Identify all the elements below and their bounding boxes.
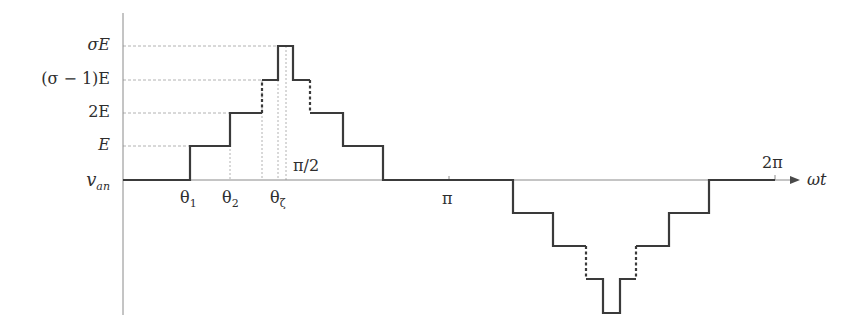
- y-label-sigma-e: σE: [0, 37, 110, 53]
- x-label-2pi: 2π: [762, 155, 783, 171]
- y-label-e: E: [0, 137, 110, 153]
- x-label-theta-zeta: θζ: [270, 190, 286, 209]
- y-label-sigma-minus-one-e: (σ − 1)E: [0, 71, 110, 87]
- level-guides: [123, 46, 278, 146]
- x-axis-arrow-icon: [790, 176, 800, 184]
- x-label-theta2: θ2: [222, 190, 239, 209]
- x-label-pi: π: [442, 191, 453, 207]
- x-label-pi-over-2: π/2: [293, 158, 319, 174]
- x-axis-label-omega-t: ωt: [807, 172, 826, 188]
- y-label-van: van: [0, 171, 110, 192]
- x-label-theta1: θ1: [180, 190, 197, 209]
- staircase-waveform-diagram: [0, 0, 860, 335]
- y-label-2e: 2E: [0, 104, 110, 120]
